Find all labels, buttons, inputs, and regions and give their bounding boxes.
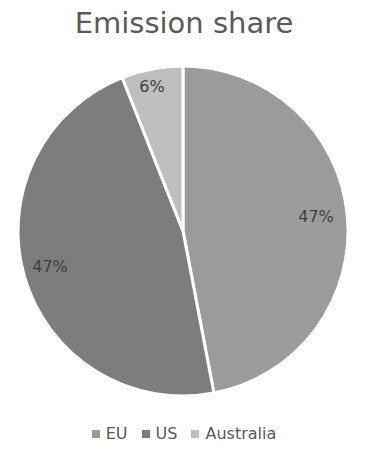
legend-label-eu: EU — [106, 424, 128, 443]
legend-swatch-eu — [92, 430, 100, 438]
data-label-us: 47% — [32, 257, 68, 276]
legend-item-australia: Australia — [191, 424, 276, 443]
data-label-australia: 6% — [139, 77, 164, 96]
data-label-eu: 47% — [298, 207, 334, 226]
pie-chart: 47%47%6% — [0, 0, 368, 468]
legend-swatch-us — [142, 430, 150, 438]
legend-item-eu: EU — [92, 424, 128, 443]
legend-item-us: US — [142, 424, 178, 443]
legend: EU US Australia — [0, 424, 368, 443]
legend-label-australia: Australia — [205, 424, 276, 443]
legend-swatch-australia — [191, 430, 199, 438]
pie-slices — [18, 66, 348, 396]
legend-label-us: US — [156, 424, 178, 443]
pie-slice-eu — [183, 66, 348, 393]
